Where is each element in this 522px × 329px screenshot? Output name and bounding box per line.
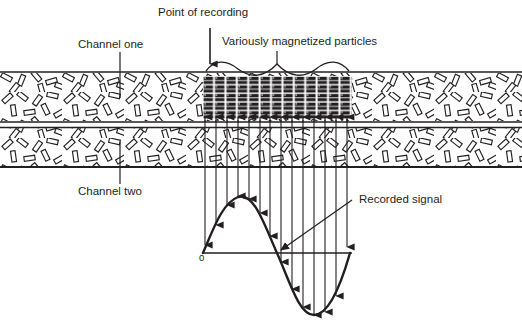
label-channel-two: Channel two [78, 185, 142, 198]
label-zero-origin: 0 [199, 252, 204, 263]
label-channel-one: Channel one [78, 38, 143, 51]
label-variously-magnetized-particles: Variously magnetized particles [222, 35, 377, 48]
recorded-signal-curve [203, 196, 350, 315]
figure-canvas: Point of recording Variously magnetized … [0, 0, 522, 329]
tape-body [0, 72, 522, 167]
magnetized-zone [203, 76, 352, 119]
label-point-of-recording: Point of recording [158, 6, 248, 19]
channel-two-band [0, 128, 522, 166]
label-recorded-signal: Recorded signal [359, 193, 442, 206]
